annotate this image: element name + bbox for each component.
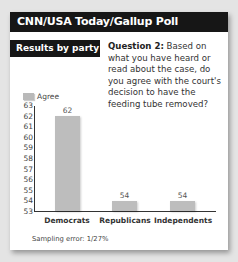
- bar-value-independents: 54: [170, 191, 195, 200]
- y-tick: 55: [19, 187, 33, 195]
- y-tick: 56: [19, 176, 33, 184]
- bar-republicans: [112, 201, 137, 211]
- category-label-republicans: Republicans: [95, 216, 155, 225]
- y-axis: [34, 106, 35, 212]
- y-tick: 60: [19, 134, 33, 142]
- y-tick: 62: [19, 113, 33, 121]
- bar-value-republicans: 54: [112, 191, 137, 200]
- poll-card: CNN/USA Today/Gallup Poll Results by par…: [10, 12, 228, 250]
- bar-independents: [170, 201, 195, 211]
- y-tick: 57: [19, 166, 33, 174]
- sampling-error-note: Sampling error: 1/27%: [32, 235, 108, 243]
- y-tick: 53: [19, 208, 33, 216]
- y-tick: 59: [19, 144, 33, 152]
- x-axis: [34, 211, 216, 212]
- bar-value-democrats: 62: [55, 106, 80, 115]
- y-tick: 61: [19, 123, 33, 131]
- category-label-independents: Independents: [153, 216, 213, 225]
- y-tick: 58: [19, 155, 33, 163]
- y-tick: 63: [19, 102, 33, 110]
- bar-democrats: [55, 116, 80, 211]
- y-tick: 54: [19, 197, 33, 205]
- bar-chart: 63 62 61 60 59 58 57 56 55 54 53 62 54 5…: [10, 12, 228, 250]
- category-label-democrats: Democrats: [37, 216, 97, 225]
